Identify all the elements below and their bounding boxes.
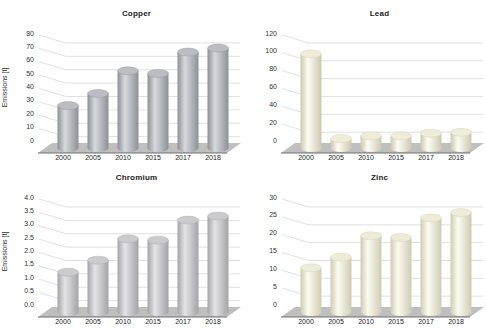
bar-2015: [391, 233, 412, 316]
bar-2010: [118, 67, 139, 152]
y-tick-label: 30: [26, 96, 34, 103]
chart-canvas-lead: 020406080100120200020052010201520172018: [243, 0, 486, 164]
x-tick-label: 2010: [115, 318, 131, 325]
bar-2000: [301, 50, 322, 152]
y-tick-label: 5: [273, 283, 277, 290]
x-tick-label: 2000: [55, 318, 71, 325]
y-tick-label: 20: [269, 119, 277, 126]
gridline: [39, 199, 240, 207]
bar-2005: [88, 256, 109, 316]
y-tick-label: 1.0: [24, 274, 34, 281]
x-tick-label: 2010: [358, 154, 374, 161]
x-tick-label: 2017: [175, 154, 191, 161]
bar-2018: [208, 44, 229, 152]
y-tick-label: 10: [26, 123, 34, 130]
y-tick-label: 0: [30, 137, 34, 144]
y-tick-label: 3.0: [24, 220, 34, 227]
bar-2010: [361, 232, 382, 316]
x-tick-label: 2000: [55, 154, 71, 161]
x-tick-label: 2015: [145, 154, 161, 161]
y-tick-label: 3.5: [24, 207, 34, 214]
bar-2017: [178, 216, 199, 316]
bar-2005: [331, 253, 352, 316]
y-tick-label: 30: [269, 194, 277, 201]
bar-2005: [331, 135, 352, 152]
chart-canvas-copper: 0102030405060708020002005201020152017201…: [0, 0, 243, 164]
y-tick-label: 100: [265, 47, 277, 54]
x-tick-label: 2005: [328, 318, 344, 325]
x-tick-label: 2018: [205, 318, 221, 325]
chart-copper: Copper Emissions [t] 0102030405060708020…: [0, 0, 243, 164]
bar-2018: [208, 212, 229, 316]
gridline: [282, 199, 483, 207]
y-tick-label: 80: [26, 30, 34, 37]
x-tick-label: 2018: [448, 318, 464, 325]
x-tick-label: 2017: [418, 154, 434, 161]
y-tick-label: 60: [26, 56, 34, 63]
x-tick-label: 2017: [418, 318, 434, 325]
y-tick-label: 0.0: [24, 301, 34, 308]
bar-2010: [361, 132, 382, 152]
y-tick-label: 50: [26, 70, 34, 77]
chart-canvas-zinc: 051015202530200020052010201520172018: [243, 164, 486, 328]
y-tick-label: 20: [26, 110, 34, 117]
y-tick-label: 0.5: [24, 287, 34, 294]
bar-2000: [58, 102, 79, 152]
x-tick-label: 2010: [115, 154, 131, 161]
x-tick-label: 2005: [85, 318, 101, 325]
x-tick-label: 2017: [175, 318, 191, 325]
bar-2017: [421, 129, 442, 152]
bar-2017: [178, 48, 199, 152]
bar-2018: [451, 128, 472, 152]
x-tick-label: 2000: [298, 318, 314, 325]
y-tick-label: 40: [26, 83, 34, 90]
y-tick-label: 0: [273, 137, 277, 144]
y-tick-label: 80: [269, 65, 277, 72]
chart-lead: Lead 02040608010012020002005201020152017…: [243, 0, 486, 164]
bar-2017: [421, 214, 442, 316]
bar-2000: [301, 264, 322, 316]
y-tick-label: 120: [265, 30, 277, 37]
x-tick-label: 2010: [358, 318, 374, 325]
bar-2018: [451, 208, 472, 316]
chart-grid: Copper Emissions [t] 0102030405060708020…: [0, 0, 486, 328]
gridline: [39, 35, 240, 43]
x-tick-label: 2018: [448, 154, 464, 161]
y-tick-label: 4.0: [24, 194, 34, 201]
y-tick-label: 1.5: [24, 260, 34, 267]
bar-2000: [58, 268, 79, 316]
bar-2010: [118, 235, 139, 316]
y-tick-label: 0: [273, 301, 277, 308]
y-tick-label: 2.0: [24, 247, 34, 254]
y-tick-label: 20: [269, 229, 277, 236]
x-tick-label: 2005: [328, 154, 344, 161]
bar-2015: [391, 132, 412, 152]
y-tick-label: 25: [269, 211, 277, 218]
bar-2015: [148, 236, 169, 316]
x-tick-label: 2018: [205, 154, 221, 161]
bar-2005: [88, 90, 109, 152]
x-tick-label: 2015: [388, 318, 404, 325]
chart-chromium: Chromium Emissions [t] 0.00.51.01.52.02.…: [0, 164, 243, 328]
y-tick-label: 15: [269, 247, 277, 254]
gridline: [282, 35, 483, 43]
chart-dashboard: Copper Emissions [t] 0102030405060708020…: [0, 0, 486, 328]
y-tick-label: 60: [269, 83, 277, 90]
y-tick-label: 40: [269, 101, 277, 108]
y-tick-label: 10: [269, 265, 277, 272]
x-tick-label: 2015: [388, 154, 404, 161]
y-tick-label: 70: [26, 43, 34, 50]
chart-canvas-chromium: 0.00.51.01.52.02.53.03.54.02000200520102…: [0, 164, 243, 328]
chart-zinc: Zinc 05101520253020002005201020152017201…: [243, 164, 486, 328]
y-tick-label: 2.5: [24, 234, 34, 241]
x-tick-label: 2005: [85, 154, 101, 161]
x-tick-label: 2015: [145, 318, 161, 325]
bar-2015: [148, 69, 169, 152]
x-tick-label: 2000: [298, 154, 314, 161]
